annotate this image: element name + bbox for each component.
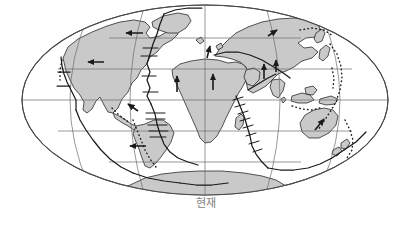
figure-caption: 현재 — [0, 196, 412, 210]
world-map — [0, 0, 412, 227]
figure-container: 현재 — [0, 0, 412, 227]
